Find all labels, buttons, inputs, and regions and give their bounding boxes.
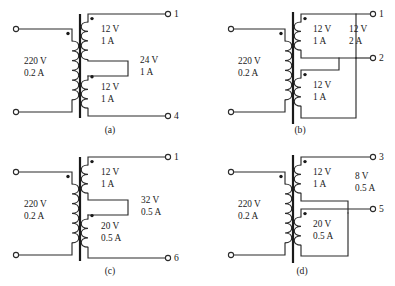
secondary-lower-polarity-dot xyxy=(90,75,93,78)
series-link-c xyxy=(88,193,128,215)
secondary-upper-voltage-label: 12 V xyxy=(101,24,119,34)
series-opposing-link-mid xyxy=(301,209,373,217)
panel-b-secondary-lower: 12 V 1 A xyxy=(294,58,356,118)
secondary-coil-lower xyxy=(81,219,88,247)
secondary-upper-current-label: 1 A xyxy=(101,179,114,189)
panel-c: 220 V 0.2 A 12 V 1 A 20 V 0.5 A xyxy=(13,151,179,278)
secondary-upper-current-label: 1 A xyxy=(101,36,114,46)
output-terminal-1-label: 1 xyxy=(379,8,384,19)
transformer-connections-figure: 220 V 0.2 A 12 V 1 A 1 xyxy=(0,0,395,286)
panel-a-caption: (a) xyxy=(105,124,116,136)
output-terminal-1-label: 1 xyxy=(174,8,179,19)
output-terminal-1[interactable] xyxy=(165,11,170,16)
primary-current-label: 0.2 A xyxy=(238,68,258,78)
output-voltage-label: 32 V xyxy=(141,195,159,205)
secondary-coil-upper xyxy=(81,22,88,60)
output-voltage-label: 8 V xyxy=(355,171,369,181)
output-current-label: 0.5 A xyxy=(141,207,161,217)
secondary-lower-current-label: 0.5 A xyxy=(313,231,333,241)
output-terminal-1[interactable] xyxy=(165,154,170,159)
primary-coil xyxy=(285,184,292,243)
primary-terminal-bottom[interactable] xyxy=(228,252,233,257)
secondary-lower-polarity-dot xyxy=(303,212,306,215)
secondary-upper-polarity-dot xyxy=(303,17,306,20)
primary-polarity-dot xyxy=(66,175,69,178)
primary-coil xyxy=(285,41,292,100)
output-terminal-2[interactable] xyxy=(370,55,375,60)
panel-d-caption: (d) xyxy=(296,265,307,277)
panel-c-caption: (c) xyxy=(105,265,116,277)
panel-c-secondary-upper: 12 V 1 A xyxy=(81,157,168,193)
primary-terminal-top[interactable] xyxy=(13,26,18,31)
secondary-lower-voltage-label: 20 V xyxy=(101,221,119,231)
output-voltage-label: 24 V xyxy=(140,55,158,65)
output-current-label: 1 A xyxy=(140,67,153,77)
secondary-coil-lower xyxy=(294,217,301,245)
secondary-lower-voltage-label: 12 V xyxy=(101,82,119,92)
primary-voltage-label: 220 V xyxy=(238,199,261,209)
output-terminal-1[interactable] xyxy=(370,11,375,16)
primary-terminal-bottom[interactable] xyxy=(13,252,18,257)
output-terminal-3-label: 3 xyxy=(379,151,384,162)
secondary-coil-upper xyxy=(294,22,301,50)
parallel-link-lower-top xyxy=(301,58,339,78)
secondary-lower-current-label: 0.5 A xyxy=(101,233,121,243)
output-terminal-6[interactable] xyxy=(165,255,170,260)
primary-coil xyxy=(72,184,79,243)
primary-polarity-dot xyxy=(279,32,282,35)
primary-terminal-bottom[interactable] xyxy=(228,109,233,114)
secondary-lower-polarity-dot xyxy=(90,214,93,217)
primary-terminal-top[interactable] xyxy=(228,26,233,31)
secondary-coil-lower xyxy=(294,78,301,106)
primary-current-label: 0.2 A xyxy=(238,211,258,221)
output-terminal-5-label: 5 xyxy=(379,203,384,214)
primary-polarity-dot xyxy=(66,32,69,35)
primary-terminal-bottom[interactable] xyxy=(13,109,18,114)
output-terminal-4[interactable] xyxy=(165,113,170,118)
secondary-lower-current-label: 1 A xyxy=(101,94,114,104)
output-voltage-label: 12 V xyxy=(349,24,367,34)
output-terminal-5[interactable] xyxy=(370,206,375,211)
primary-coil xyxy=(72,41,79,100)
secondary-upper-current-label: 1 A xyxy=(313,36,326,46)
primary-terminal-top[interactable] xyxy=(13,169,18,174)
secondary-lower-voltage-label: 20 V xyxy=(313,219,331,229)
panel-c-secondary-lower: 20 V 0.5 A xyxy=(81,214,168,258)
primary-voltage-label: 220 V xyxy=(24,56,47,66)
output-terminal-2-label: 2 xyxy=(379,52,384,63)
primary-current-label: 0.2 A xyxy=(24,211,44,221)
panel-d: 220 V 0.2 A 12 V 1 A 20 V 0.5 A xyxy=(228,151,384,278)
panel-d-secondary-lower: 20 V 0.5 A xyxy=(294,209,373,256)
secondary-lower-polarity-dot xyxy=(303,73,306,76)
series-opposing-link-top xyxy=(301,193,348,213)
output-current-label: 2 A xyxy=(349,36,362,46)
primary-voltage-label: 220 V xyxy=(24,199,47,209)
output-terminal-3[interactable] xyxy=(370,154,375,159)
primary-polarity-dot xyxy=(279,175,282,178)
secondary-upper-voltage-label: 12 V xyxy=(313,24,331,34)
secondary-lower-voltage-label: 12 V xyxy=(313,80,331,90)
panel-b: 220 V 0.2 A 12 V 1 A 1 xyxy=(228,8,384,137)
secondary-lower-current-label: 1 A xyxy=(313,92,326,102)
secondary-upper-polarity-dot xyxy=(90,17,93,20)
panel-a-secondary-lower: 12 V 1 A xyxy=(81,75,168,116)
secondary-upper-polarity-dot xyxy=(90,160,93,163)
output-current-label: 0.5 A xyxy=(355,183,375,193)
circuit-diagram-canvas: 220 V 0.2 A 12 V 1 A 1 xyxy=(0,0,395,286)
secondary-coil-upper xyxy=(294,165,301,193)
output-terminal-6-label: 6 xyxy=(174,252,179,263)
panel-b-caption: (b) xyxy=(294,124,305,136)
secondary-coil-upper xyxy=(81,165,88,193)
secondary-coil-lower xyxy=(81,80,88,108)
secondary-upper-voltage-label: 12 V xyxy=(313,167,331,177)
panel-c-primary: 220 V 0.2 A xyxy=(13,169,78,257)
panel-d-primary: 220 V 0.2 A xyxy=(228,169,291,257)
primary-terminal-top[interactable] xyxy=(228,169,233,174)
output-terminal-4-label: 4 xyxy=(174,110,179,121)
secondary-upper-voltage-label: 12 V xyxy=(101,167,119,177)
panel-a: 220 V 0.2 A 12 V 1 A 1 xyxy=(13,8,179,137)
output-terminal-1-label: 1 xyxy=(174,151,179,162)
secondary-upper-polarity-dot xyxy=(303,160,306,163)
panel-a-secondary-upper: 12 V 1 A xyxy=(81,14,168,61)
primary-current-label: 0.2 A xyxy=(24,68,44,78)
